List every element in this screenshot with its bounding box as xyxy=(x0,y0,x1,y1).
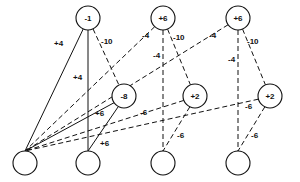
node-value-label: +6 xyxy=(158,14,168,23)
edge-weight-label: -6 xyxy=(140,108,148,117)
network-diagram: +4+4-10-4-4-10-4-4-10+6+6-6-6-6-6 -1+6+6… xyxy=(0,0,300,182)
input-node-i3 xyxy=(151,151,175,175)
node-value-label: -8 xyxy=(120,92,128,101)
node-circle xyxy=(151,151,175,175)
edge-h2-i3 xyxy=(163,107,190,151)
node-value-label: +2 xyxy=(265,92,275,101)
output-node-o1: -1 xyxy=(76,6,100,30)
edge-weight-label: -6 xyxy=(177,131,185,140)
output-node-o2: +6 xyxy=(151,6,175,30)
edge-weight-label: -4 xyxy=(153,51,161,60)
node-circle xyxy=(13,151,37,175)
edge-labels-group: +4+4-10-4-4-10-4-4-10+6+6-6-6-6-6 xyxy=(54,31,259,148)
edge-weight-label: -4 xyxy=(142,31,150,40)
edge-weight-label: -6 xyxy=(245,102,253,111)
hidden-node-h1: -8 xyxy=(112,84,136,108)
node-circle xyxy=(76,151,100,175)
edge-weight-label: +6 xyxy=(95,109,105,118)
edge-weight-label: -10 xyxy=(101,37,113,46)
node-value-label: +6 xyxy=(233,14,243,23)
edge-weight-label: -4 xyxy=(209,31,217,40)
hidden-node-h2: +2 xyxy=(183,84,207,108)
edge-weight-label: -6 xyxy=(251,131,259,140)
input-node-i2 xyxy=(76,151,100,175)
hidden-node-h3: +2 xyxy=(258,84,282,108)
edge-weight-label: +6 xyxy=(100,139,110,148)
edge-weight-label: -4 xyxy=(228,55,236,64)
node-value-label: -1 xyxy=(84,14,92,23)
output-node-o3: +6 xyxy=(226,6,250,30)
input-node-i1 xyxy=(13,151,37,175)
edge-weight-label: -10 xyxy=(173,33,185,42)
edge-weight-label: +4 xyxy=(73,73,83,82)
edge-h3-i4 xyxy=(238,107,265,151)
edge-weight-label: +4 xyxy=(54,39,64,48)
node-circle xyxy=(226,151,250,175)
edge-o2-i1 xyxy=(25,27,155,151)
node-value-label: +2 xyxy=(190,92,200,101)
edge-weight-label: -10 xyxy=(247,37,259,46)
input-node-i4 xyxy=(226,151,250,175)
edge-h3-i1 xyxy=(25,99,258,151)
